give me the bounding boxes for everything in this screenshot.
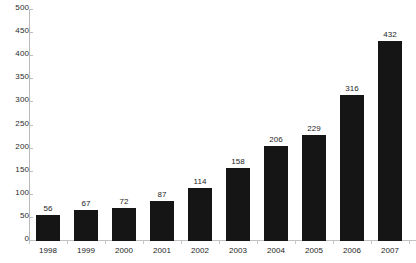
x-axis-tick-label: 2005	[293, 246, 335, 256]
bar	[264, 146, 288, 241]
bar-group: 158	[226, 10, 250, 241]
x-axis-tick-mark	[257, 241, 258, 244]
bar-group: 114	[188, 10, 212, 241]
bar-value-label: 206	[255, 135, 297, 144]
x-axis-tick-mark	[409, 241, 410, 244]
bar-group: 72	[112, 10, 136, 241]
bar	[378, 41, 402, 241]
bar-group: 229	[302, 10, 326, 241]
bar-value-label: 229	[293, 124, 335, 133]
x-axis-tick-mark	[29, 241, 30, 244]
x-axis-tick-label: 1998	[27, 246, 69, 256]
bar	[302, 135, 326, 241]
bar-group: 67	[74, 10, 98, 241]
x-axis-tick-label: 2001	[141, 246, 183, 256]
bar-value-label: 72	[103, 197, 145, 206]
x-axis-tick-mark	[219, 241, 220, 244]
bar-value-label: 87	[141, 190, 183, 199]
bar-value-label: 56	[27, 204, 69, 213]
bar-group: 87	[150, 10, 174, 241]
x-axis-tick-label: 2006	[331, 246, 373, 256]
x-axis-tick-label: 2003	[217, 246, 259, 256]
y-axis-tick-label: 250	[5, 119, 29, 128]
y-axis-tick-label: 400	[5, 49, 29, 58]
x-axis-tick-mark	[143, 241, 144, 244]
y-axis-tick-label: 200	[5, 142, 29, 151]
bar-value-label: 114	[179, 177, 221, 186]
bar	[74, 210, 98, 241]
y-axis-tick-label: 150	[5, 165, 29, 174]
bar-group: 432	[378, 10, 402, 241]
x-axis-tick-label: 1999	[65, 246, 107, 256]
y-axis-tick-label: 50	[5, 211, 29, 220]
bar-group: 206	[264, 10, 288, 241]
bar-value-label: 158	[217, 157, 259, 166]
bar-group: 316	[340, 10, 364, 241]
y-axis-tick-label: 450	[5, 26, 29, 35]
x-axis-tick-label: 2002	[179, 246, 221, 256]
x-axis-tick-mark	[67, 241, 68, 244]
bar	[188, 188, 212, 241]
y-axis-tick-label: 300	[5, 95, 29, 104]
x-axis-tick-mark	[333, 241, 334, 244]
x-axis-tick-mark	[105, 241, 106, 244]
bar-value-label: 432	[369, 30, 411, 39]
x-axis-tick-mark	[371, 241, 372, 244]
y-axis-tick-label: 350	[5, 72, 29, 81]
bar-value-label: 67	[65, 199, 107, 208]
bar	[226, 168, 250, 241]
bar-chart: 050100150200250300350400450500 566772871…	[0, 0, 416, 263]
bar	[340, 95, 364, 241]
x-axis-tick-label: 2007	[369, 246, 411, 256]
bar-group: 56	[36, 10, 60, 241]
y-axis-tick-label: 500	[5, 3, 29, 12]
x-axis-tick-mark	[295, 241, 296, 244]
bar	[112, 208, 136, 241]
x-axis-tick-mark	[181, 241, 182, 244]
bar-value-label: 316	[331, 84, 373, 93]
bar	[150, 201, 174, 241]
x-axis-tick-label: 2000	[103, 246, 145, 256]
bar	[36, 215, 60, 241]
y-axis-tick-label: 0	[5, 234, 29, 243]
plot-area: 56677287114158206229316432	[29, 9, 416, 241]
x-axis-tick-label: 2004	[255, 246, 297, 256]
y-axis-tick-label: 100	[5, 188, 29, 197]
